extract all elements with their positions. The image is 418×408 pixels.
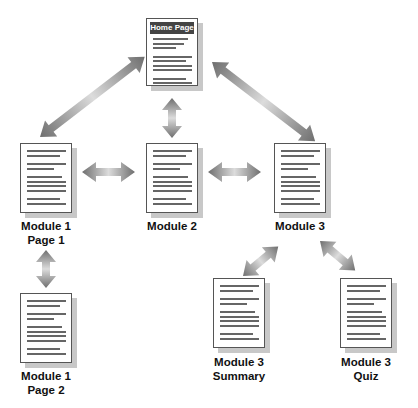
home-page-header: Home Page [150, 22, 194, 34]
label-line: Module 1 [0, 369, 96, 383]
doc-module3-quiz[interactable] [340, 278, 392, 348]
arrow-m3-m3s [237, 239, 285, 284]
label-line: Page 2 [0, 383, 96, 397]
label-line: Module 1 [0, 219, 96, 233]
arrow-home-m1p1 [34, 49, 151, 145]
label-module1-page1: Module 1Page 1 [0, 219, 96, 247]
arrow-m1p1-m1p2 [36, 250, 56, 288]
arrow-m1p1-m2 [82, 162, 135, 182]
label-module3-quiz: Module 3Quiz [316, 355, 416, 383]
label-module3-summary: Module 3Summary [189, 355, 289, 383]
label-line: Module 3 [189, 355, 289, 369]
doc-module1-page2[interactable] [20, 293, 72, 363]
doc-module1-page1[interactable] [20, 143, 72, 213]
arrow-m2-m3 [208, 162, 261, 182]
doc-module2[interactable] [146, 143, 198, 213]
arrow-home-m3 [206, 54, 321, 149]
label-line: Module 3 [316, 355, 416, 369]
arrow-m3-m3q [314, 233, 362, 278]
doc-home-page[interactable]: Home Page [146, 18, 198, 86]
label-module1-page2: Module 1Page 2 [0, 369, 96, 397]
label-line: Summary [189, 369, 289, 383]
arrow-home-m2 [162, 98, 182, 138]
doc-module3-summary[interactable] [213, 278, 265, 348]
label-line: Page 1 [0, 233, 96, 247]
label-line: Quiz [316, 369, 416, 383]
label-module3: Module 3 [250, 219, 350, 233]
doc-module3[interactable] [274, 143, 326, 213]
label-module2: Module 2 [122, 219, 222, 233]
